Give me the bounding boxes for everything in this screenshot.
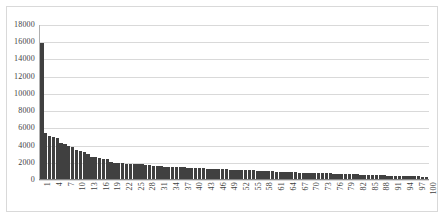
y-tick-label: 10000 bbox=[14, 90, 35, 98]
x-tick-label: 100 bbox=[430, 182, 438, 195]
x-tick-label: 91 bbox=[395, 182, 403, 190]
x-tick-label: 4 bbox=[56, 182, 64, 186]
x-tick-label: 76 bbox=[337, 182, 345, 190]
bar bbox=[136, 164, 139, 179]
x-tick-label: 46 bbox=[220, 182, 228, 190]
bar bbox=[79, 151, 82, 179]
x-tick-label: 88 bbox=[383, 182, 391, 190]
x-tick-label: 94 bbox=[407, 182, 415, 190]
bar bbox=[294, 172, 297, 179]
bar bbox=[282, 172, 285, 179]
bar bbox=[271, 171, 274, 179]
bar bbox=[117, 163, 120, 179]
bar bbox=[133, 164, 136, 179]
x-axis-line bbox=[39, 179, 429, 180]
bar bbox=[252, 170, 255, 179]
x-tick-label: 58 bbox=[266, 182, 274, 190]
bar bbox=[163, 167, 166, 179]
bar bbox=[290, 172, 293, 179]
bar bbox=[190, 168, 193, 179]
bar bbox=[167, 167, 170, 179]
x-tick-label: 82 bbox=[360, 182, 368, 190]
bar bbox=[125, 164, 128, 180]
x-tick-label: 10 bbox=[79, 182, 87, 190]
bar bbox=[267, 171, 270, 179]
bar bbox=[236, 170, 239, 179]
x-tick-label: 67 bbox=[302, 182, 310, 190]
x-tick-label: 19 bbox=[114, 182, 122, 190]
x-tick-label: 61 bbox=[278, 182, 286, 190]
bar bbox=[83, 152, 86, 179]
bar bbox=[44, 133, 47, 180]
bar bbox=[279, 172, 282, 179]
bar bbox=[75, 150, 78, 179]
x-tick-label: 49 bbox=[231, 182, 239, 190]
y-tick-label: 12000 bbox=[14, 73, 35, 81]
bar bbox=[148, 165, 151, 179]
bar bbox=[67, 146, 70, 179]
bar bbox=[144, 165, 147, 179]
bar bbox=[179, 167, 182, 179]
x-axis: 1471013161922252831343740434649525558616… bbox=[39, 181, 429, 212]
bar bbox=[229, 170, 232, 179]
x-tick-label: 31 bbox=[161, 182, 169, 190]
bar bbox=[244, 170, 247, 179]
x-tick-label: 7 bbox=[68, 182, 76, 186]
bar bbox=[256, 171, 259, 179]
x-tick-label: 28 bbox=[149, 182, 157, 190]
y-tick-label: 6000 bbox=[18, 124, 35, 132]
bar bbox=[156, 166, 159, 179]
x-tick-label: 1 bbox=[44, 182, 52, 186]
bar bbox=[40, 43, 43, 179]
x-tick-label: 70 bbox=[313, 182, 321, 190]
x-tick-label: 52 bbox=[243, 182, 251, 190]
bar bbox=[140, 164, 143, 179]
bar bbox=[213, 169, 216, 179]
y-tick-label: 2000 bbox=[18, 159, 35, 167]
bar bbox=[217, 169, 220, 179]
bar-series bbox=[40, 25, 429, 179]
x-tick-label: 40 bbox=[196, 182, 204, 190]
bar bbox=[71, 147, 74, 179]
bar bbox=[286, 172, 289, 179]
bar bbox=[59, 143, 62, 179]
bar bbox=[159, 166, 162, 179]
plot-area bbox=[39, 25, 429, 180]
bar bbox=[202, 168, 205, 179]
bar bbox=[63, 144, 66, 179]
x-tick-label: 34 bbox=[173, 182, 181, 190]
bar bbox=[86, 154, 89, 179]
x-tick-label: 43 bbox=[208, 182, 216, 190]
bar bbox=[263, 171, 266, 179]
bar bbox=[182, 167, 185, 179]
bar bbox=[259, 171, 262, 179]
bar bbox=[240, 170, 243, 179]
bar bbox=[102, 159, 105, 179]
bar bbox=[113, 163, 116, 179]
bar bbox=[152, 166, 155, 179]
x-tick-label: 79 bbox=[348, 182, 356, 190]
bar bbox=[225, 169, 228, 179]
chart-container: 0200040006000800010000120001400016000180… bbox=[0, 0, 444, 218]
bar bbox=[109, 162, 112, 179]
y-axis: 0200040006000800010000120001400016000180… bbox=[0, 25, 35, 180]
y-tick-label: 0 bbox=[31, 176, 35, 184]
x-tick-label: 85 bbox=[372, 182, 380, 190]
y-tick-label: 14000 bbox=[14, 55, 35, 63]
bar bbox=[171, 167, 174, 179]
bar bbox=[248, 170, 251, 179]
bar bbox=[175, 167, 178, 179]
bar bbox=[98, 158, 101, 179]
x-tick-label: 13 bbox=[91, 182, 99, 190]
bar bbox=[48, 136, 51, 179]
bar bbox=[221, 169, 224, 179]
x-tick-label: 22 bbox=[126, 182, 134, 190]
bar bbox=[121, 163, 124, 179]
x-tick-label: 16 bbox=[103, 182, 111, 190]
x-tick-label: 25 bbox=[138, 182, 146, 190]
x-tick-label: 97 bbox=[419, 182, 427, 190]
x-tick-label: 55 bbox=[255, 182, 263, 190]
bar bbox=[194, 168, 197, 179]
bar bbox=[129, 164, 132, 180]
bar bbox=[90, 157, 93, 179]
